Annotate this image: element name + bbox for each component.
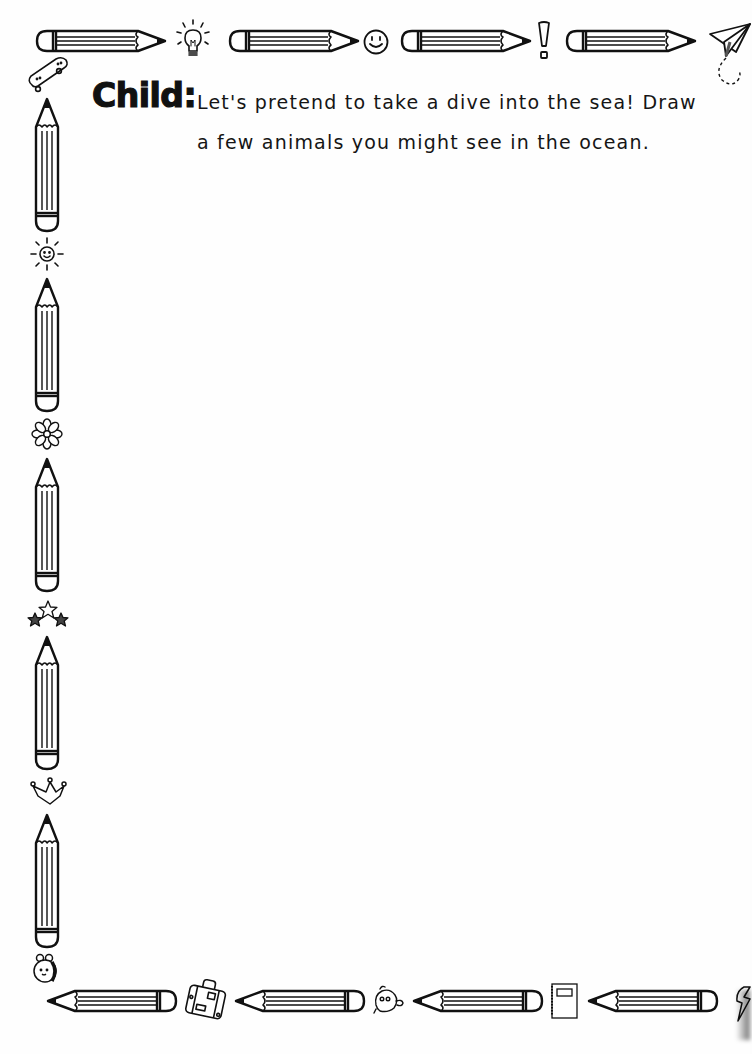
prompt-line-2: a few animals you might see in the ocean… bbox=[197, 131, 650, 153]
pencil-top-3 bbox=[400, 29, 534, 53]
pencil-top-2 bbox=[228, 29, 362, 53]
pencil-top-4 bbox=[565, 29, 699, 53]
child-label: Child: bbox=[92, 76, 196, 115]
sun-icon bbox=[30, 236, 64, 272]
pencil-left-3 bbox=[34, 457, 60, 593]
pencil-left-5 bbox=[34, 813, 60, 949]
paper-plane-icon bbox=[708, 22, 752, 88]
notebook-icon bbox=[549, 982, 579, 1020]
page-edge-shadow bbox=[736, 990, 750, 1040]
prompt-line-1: Let's pretend to take a dive into the se… bbox=[197, 91, 697, 113]
chick-icon bbox=[372, 983, 408, 1017]
pencil-bottom-1 bbox=[44, 989, 178, 1013]
crown-icon bbox=[30, 774, 68, 806]
pencil-left-1 bbox=[34, 97, 60, 233]
pencil-bottom-3 bbox=[410, 989, 544, 1013]
drawing-area[interactable] bbox=[80, 175, 730, 965]
exclamation-icon bbox=[536, 20, 552, 62]
flower-icon bbox=[31, 418, 63, 450]
smiley-icon bbox=[362, 28, 390, 56]
pencil-bottom-2 bbox=[232, 989, 366, 1013]
suitcase-icon bbox=[183, 978, 229, 1022]
pencil-left-2 bbox=[34, 277, 60, 413]
skateboard-icon bbox=[26, 55, 70, 93]
bee-icon bbox=[30, 953, 62, 985]
pencil-top-1 bbox=[35, 29, 169, 53]
stars-icon bbox=[27, 600, 69, 628]
pencil-left-4 bbox=[34, 635, 60, 771]
pencil-bottom-4 bbox=[585, 989, 719, 1013]
lightbulb-icon bbox=[175, 18, 211, 60]
